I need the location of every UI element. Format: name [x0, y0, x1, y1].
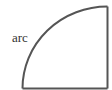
quarter-circle-diagram: arc [0, 0, 112, 90]
arc-label: arc [12, 30, 28, 45]
arc [23, 7, 108, 89]
